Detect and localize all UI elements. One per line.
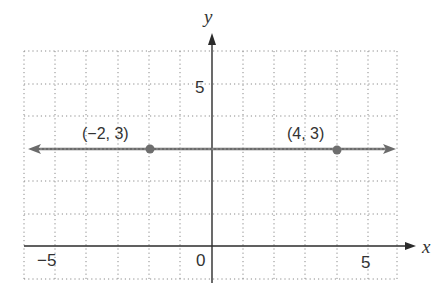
y-axis-label: y bbox=[202, 6, 213, 27]
x-tick-neg5: −5 bbox=[37, 251, 56, 270]
x-axis-label: x bbox=[421, 236, 431, 257]
grid bbox=[24, 51, 397, 279]
x-axis-arrow-icon bbox=[405, 242, 416, 250]
y-tick-5: 5 bbox=[195, 78, 204, 97]
axes bbox=[24, 33, 416, 283]
y-axis-arrow-icon bbox=[208, 33, 216, 45]
point-label-a: (−2, 3) bbox=[82, 125, 129, 142]
point-label-b: (4, 3) bbox=[287, 125, 324, 142]
point-4-3 bbox=[333, 146, 342, 155]
coordinate-plane: (−2, 3) (4, 3) 5 −5 0 5 x y bbox=[0, 0, 443, 289]
x-tick-0: 0 bbox=[196, 251, 205, 270]
point-neg2-3 bbox=[146, 145, 155, 154]
x-tick-5: 5 bbox=[361, 253, 370, 272]
